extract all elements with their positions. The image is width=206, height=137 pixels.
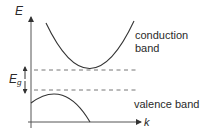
conduction-band-label-line2: band (135, 42, 188, 55)
conduction-band-curve (46, 21, 134, 69)
band-gap-label: Eg (9, 73, 21, 87)
conduction-band-label: conduction band (135, 29, 188, 55)
valence-band-label: valence band (134, 98, 199, 111)
band-diagram (0, 0, 206, 137)
valence-band-curve (31, 94, 90, 122)
conduction-band-label-line1: conduction (135, 29, 188, 42)
k-axis-label: k (144, 117, 150, 128)
band-gap-subscript: g (17, 78, 21, 87)
energy-axis-label: E (15, 5, 23, 17)
band-gap-symbol: E (9, 72, 17, 86)
